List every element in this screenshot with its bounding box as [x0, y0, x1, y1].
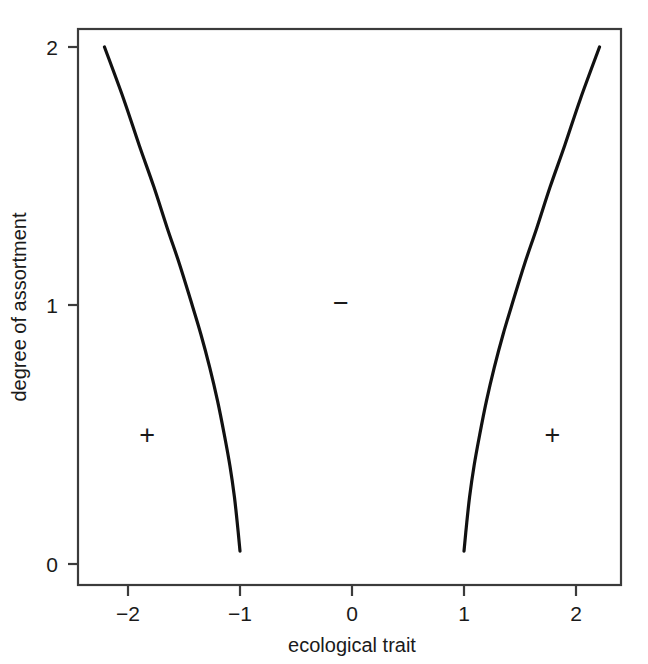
x-tick-label-1: 1: [458, 602, 470, 625]
minus-sign-center: −: [333, 288, 349, 318]
y-tick-label-1: 1: [46, 294, 58, 317]
x-tick-label-2: 2: [570, 602, 582, 625]
chart-background: [0, 0, 648, 664]
chart-figure: 0 1 2 −2 −1 0 1 2 ecological trait degre…: [0, 0, 648, 664]
x-tick-label-neg1: −1: [228, 602, 252, 625]
chart-canvas: 0 1 2 −2 −1 0 1 2 ecological trait degre…: [0, 0, 648, 664]
y-axis-title: degree of assortment: [8, 212, 30, 401]
x-tick-label-0: 0: [346, 602, 358, 625]
x-tick-label-neg2: −2: [116, 602, 140, 625]
plus-sign-right: +: [545, 420, 561, 450]
x-axis-title: ecological trait: [288, 634, 416, 656]
y-tick-label-0: 0: [46, 553, 58, 576]
plus-sign-left: +: [139, 420, 155, 450]
y-tick-label-2: 2: [46, 36, 58, 59]
